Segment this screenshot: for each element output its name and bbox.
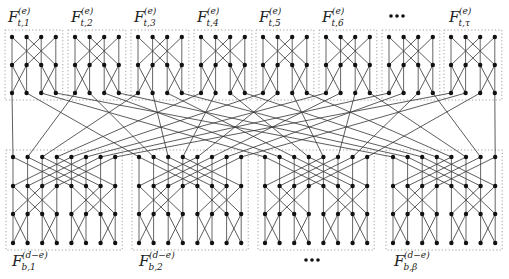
label-superscript: (e) bbox=[332, 6, 345, 16]
bottom-node bbox=[292, 155, 296, 159]
top-node bbox=[401, 63, 405, 67]
bottom-node bbox=[113, 212, 117, 216]
interconnect-edge bbox=[182, 93, 422, 157]
label-superscript: (d−e) bbox=[149, 250, 175, 260]
label-subscript: b,β bbox=[403, 262, 417, 272]
bottom-node bbox=[321, 155, 325, 159]
bottom-node bbox=[420, 212, 424, 216]
top-node bbox=[199, 63, 203, 67]
bottom-node bbox=[224, 155, 228, 159]
bottom-node bbox=[292, 212, 296, 216]
bottom-node bbox=[224, 184, 228, 188]
bottom-node bbox=[25, 212, 29, 216]
top-node bbox=[324, 63, 328, 67]
bottom-node bbox=[263, 155, 267, 159]
bottom-node bbox=[25, 184, 29, 188]
top-node bbox=[150, 35, 154, 39]
top-node bbox=[338, 63, 342, 67]
label-subscript: t,2 bbox=[80, 18, 92, 28]
top-node bbox=[401, 35, 405, 39]
top-node bbox=[463, 35, 467, 39]
bottom-node bbox=[478, 155, 482, 159]
bottom-node bbox=[292, 184, 296, 188]
bottom-node bbox=[25, 241, 29, 245]
bottom-node bbox=[478, 184, 482, 188]
top-node bbox=[117, 91, 121, 95]
top-node bbox=[353, 91, 357, 95]
bottom-node bbox=[435, 155, 439, 159]
bottom-node bbox=[55, 155, 59, 159]
bottom-node bbox=[464, 241, 468, 245]
bottom-node bbox=[321, 241, 325, 245]
top-node bbox=[275, 91, 279, 95]
bottom-node bbox=[40, 212, 44, 216]
bottom-node bbox=[350, 241, 354, 245]
top-node bbox=[449, 63, 453, 67]
bottom-node bbox=[98, 184, 102, 188]
bottom-node bbox=[336, 212, 340, 216]
bottom-node bbox=[40, 241, 44, 245]
top-node bbox=[305, 35, 309, 39]
bottom-node bbox=[55, 184, 59, 188]
bottom-node bbox=[449, 184, 453, 188]
bottom-node bbox=[195, 212, 199, 216]
top-node bbox=[353, 35, 357, 39]
top-node bbox=[243, 91, 247, 95]
top-node bbox=[401, 91, 405, 95]
interconnect-edge bbox=[307, 93, 452, 157]
interconnect-edge bbox=[227, 93, 404, 157]
bottom-node bbox=[405, 212, 409, 216]
top-node bbox=[39, 63, 43, 67]
bottom-node bbox=[336, 241, 340, 245]
bottom-node bbox=[350, 184, 354, 188]
bottom-node bbox=[84, 184, 88, 188]
bottom-node bbox=[151, 212, 155, 216]
bottom-node bbox=[420, 155, 424, 159]
bottom-node bbox=[113, 241, 117, 245]
top-node bbox=[243, 63, 247, 67]
bottom-node bbox=[239, 212, 243, 216]
ellipsis-dot bbox=[389, 14, 393, 18]
top-node bbox=[102, 91, 106, 95]
label-superscript: (d−e) bbox=[22, 250, 48, 260]
top-node bbox=[463, 63, 467, 67]
bottom-node bbox=[137, 184, 141, 188]
top-node bbox=[493, 91, 497, 95]
top-node bbox=[39, 91, 43, 95]
bottom-node bbox=[277, 184, 281, 188]
bottom-node bbox=[239, 155, 243, 159]
bottom-node bbox=[98, 241, 102, 245]
top-node bbox=[199, 35, 203, 39]
top-node bbox=[416, 91, 420, 95]
bottom-node bbox=[493, 184, 497, 188]
ellipsis-dot bbox=[304, 258, 308, 262]
top-node bbox=[305, 63, 309, 67]
top-node bbox=[368, 35, 372, 39]
top-node bbox=[199, 91, 203, 95]
bottom-node bbox=[69, 184, 73, 188]
bottom-node bbox=[292, 241, 296, 245]
bottom-node bbox=[321, 184, 325, 188]
bottom-node bbox=[307, 241, 311, 245]
bottom-node bbox=[69, 155, 73, 159]
ellipsis-dot bbox=[310, 258, 314, 262]
label-subscript: t,5 bbox=[268, 18, 280, 28]
bottom-node bbox=[98, 212, 102, 216]
bottom-node bbox=[55, 241, 59, 245]
bottom-node bbox=[239, 184, 243, 188]
interconnect-edge bbox=[433, 93, 481, 157]
bottom-node bbox=[210, 241, 214, 245]
top-node bbox=[305, 91, 309, 95]
top-node bbox=[275, 63, 279, 67]
bottom-node bbox=[449, 212, 453, 216]
top-node bbox=[290, 63, 294, 67]
top-node bbox=[150, 63, 154, 67]
top-node bbox=[87, 63, 91, 67]
bottom-node bbox=[137, 155, 141, 159]
bottom-node bbox=[69, 212, 73, 216]
top-node bbox=[24, 91, 28, 95]
bottom-node bbox=[55, 212, 59, 216]
interconnect-edge bbox=[57, 93, 201, 157]
bottom-node bbox=[493, 212, 497, 216]
interconnect-edge bbox=[42, 93, 138, 157]
